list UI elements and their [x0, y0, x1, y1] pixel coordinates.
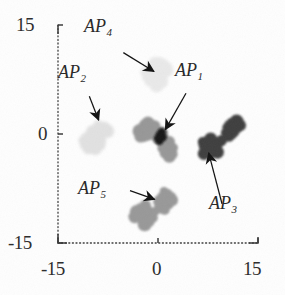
annotation-text: AP — [175, 60, 197, 80]
annotation-label-ap1: AP1 — [175, 60, 203, 81]
scatter-plot-figure: 15 0 -15 -15 0 15 AP4 AP2 AP1 AP5 AP3 — [0, 0, 285, 295]
cluster-ap2 — [78, 120, 114, 155]
arrow-to-ap1 — [165, 93, 186, 129]
y-tick-label-top: 15 — [16, 14, 34, 36]
annotation-subscript: 2 — [81, 72, 87, 84]
annotation-subscript: 1 — [198, 70, 204, 82]
x-tick-label-left: -15 — [41, 258, 65, 280]
x-tick-label-center: 0 — [152, 258, 161, 280]
y-tick-label-bottom: -15 — [8, 232, 32, 254]
x-tick-label-right: 15 — [243, 258, 261, 280]
annotation-label-ap5: AP5 — [78, 178, 106, 199]
cluster-ap3 — [198, 115, 246, 160]
cluster-ap5 — [128, 187, 178, 231]
annotation-label-ap3: AP3 — [209, 193, 237, 214]
annotation-text: AP — [209, 193, 231, 213]
y-tick-label-middle: 0 — [38, 123, 47, 145]
arrow-to-ap5 — [130, 191, 155, 200]
annotation-text: AP — [78, 178, 100, 198]
annotation-subscript: 4 — [107, 26, 113, 38]
annotation-text: AP — [58, 62, 80, 82]
annotation-subscript: 3 — [232, 203, 238, 215]
plot-canvas — [0, 0, 285, 295]
annotation-subscript: 5 — [101, 188, 107, 200]
cluster-ap4 — [140, 57, 173, 93]
annotation-label-ap2: AP2 — [58, 62, 86, 83]
annotation-text: AP — [84, 16, 106, 36]
arrow-to-ap2 — [89, 96, 98, 120]
annotation-label-ap4: AP4 — [84, 16, 112, 37]
